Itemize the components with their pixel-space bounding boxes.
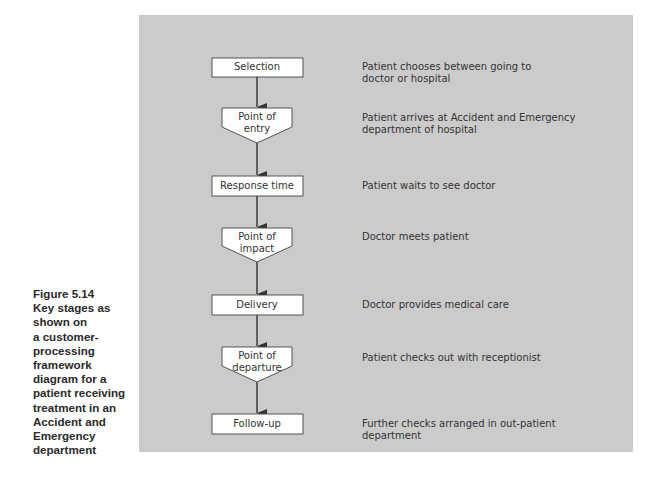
stage-label-line: entry — [211, 123, 303, 135]
description-line: Patient arrives at Accident and Emergenc… — [362, 112, 602, 124]
stage-description-selection: Patient chooses between going to doctor … — [362, 61, 602, 85]
stage-label-line: Point of — [211, 350, 303, 362]
stage-description-response-time: Patient waits to see doctor — [362, 180, 602, 192]
stage-label-line: Selection — [211, 61, 303, 73]
stage-label-line: departure — [211, 362, 303, 374]
description-line: Doctor meets patient — [362, 231, 602, 243]
stage-description-follow-up: Further checks arranged in out-patient d… — [362, 418, 602, 442]
stage-label-delivery: Delivery — [211, 299, 303, 311]
stage-label-line: Delivery — [211, 299, 303, 311]
stage-label-line: impact — [211, 243, 303, 255]
stage-label-point-of-entry: Point of entry — [211, 111, 303, 135]
description-line: department of hospital — [362, 124, 602, 136]
stage-description-point-of-departure: Patient checks out with receptionist — [362, 352, 602, 364]
description-line: Patient waits to see doctor — [362, 180, 602, 192]
stage-label-line: Response time — [211, 180, 303, 192]
stage-label-response-time: Response time — [211, 180, 303, 192]
stage-label-line: Point of — [211, 231, 303, 243]
stage-label-line: Point of — [211, 111, 303, 123]
stage-label-follow-up: Follow-up — [211, 418, 303, 430]
stage-label-line: Follow-up — [211, 418, 303, 430]
stage-label-point-of-impact: Point of impact — [211, 231, 303, 255]
stage-label-point-of-departure: Point of departure — [211, 350, 303, 374]
description-line: Patient checks out with receptionist — [362, 352, 602, 364]
stage-label-selection: Selection — [211, 61, 303, 73]
description-line: department — [362, 430, 602, 442]
description-line: Patient chooses between going to — [362, 61, 602, 73]
description-line: doctor or hospital — [362, 73, 602, 85]
stage-description-delivery: Doctor provides medical care — [362, 299, 602, 311]
description-line: Further checks arranged in out-patient — [362, 418, 602, 430]
stage-description-point-of-impact: Doctor meets patient — [362, 231, 602, 243]
stage-description-point-of-entry: Patient arrives at Accident and Emergenc… — [362, 112, 602, 136]
description-line: Doctor provides medical care — [362, 299, 602, 311]
